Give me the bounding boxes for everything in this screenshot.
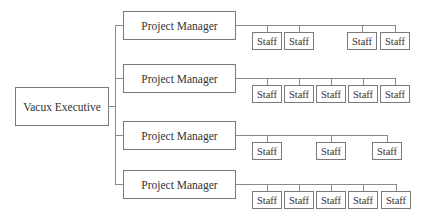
staff-box-label: Staff <box>321 146 341 157</box>
staff-box: Staff <box>347 32 377 50</box>
staff-box-label: Staff <box>257 195 277 206</box>
staff-box: Staff <box>252 85 282 103</box>
executive-box: Vacux Executive <box>15 87 109 126</box>
connector-line <box>362 25 363 32</box>
staff-box: Staff <box>252 142 282 160</box>
staff-box-label: Staff <box>289 36 309 47</box>
staff-box: Staff <box>252 191 282 209</box>
staff-box-label: Staff <box>257 89 277 100</box>
staff-box: Staff <box>381 191 411 209</box>
staff-box: Staff <box>284 191 314 209</box>
staff-box: Staff <box>380 32 410 50</box>
connector-line <box>363 184 364 191</box>
project-manager-box: Project Manager <box>123 170 236 199</box>
staff-box-label: Staff <box>353 89 373 100</box>
project-manager-box: Project Manager <box>123 121 236 150</box>
staff-box-label: Staff <box>289 89 309 100</box>
connector-line <box>395 78 396 85</box>
staff-box-label: Staff <box>353 195 373 206</box>
connector-line <box>115 25 116 185</box>
connector-line <box>267 78 268 85</box>
staff-box: Staff <box>316 142 346 160</box>
staff-box: Staff <box>372 142 402 160</box>
staff-box-label: Staff <box>386 195 406 206</box>
connector-line <box>267 25 268 32</box>
staff-box-label: Staff <box>385 36 405 47</box>
staff-box: Staff <box>284 85 314 103</box>
project-manager-box: Project Manager <box>123 64 236 93</box>
project-manager-box-label: Project Manager <box>141 20 217 32</box>
connector-line <box>299 78 300 85</box>
project-manager-box: Project Manager <box>123 11 236 40</box>
staff-box: Staff <box>348 191 378 209</box>
staff-box: Staff <box>380 85 410 103</box>
project-manager-box-label: Project Manager <box>141 130 217 142</box>
staff-box: Staff <box>316 85 346 103</box>
connector-line <box>235 78 396 79</box>
staff-box: Staff <box>348 85 378 103</box>
staff-box: Staff <box>284 32 314 50</box>
connector-line <box>387 135 388 142</box>
connector-line <box>396 184 397 191</box>
connector-line <box>115 25 123 26</box>
connector-line <box>331 135 332 142</box>
connector-line <box>267 135 268 142</box>
staff-box-label: Staff <box>321 195 341 206</box>
staff-box: Staff <box>252 32 282 50</box>
connector-line <box>235 135 388 136</box>
connector-line <box>331 78 332 85</box>
connector-line <box>267 184 268 191</box>
connector-line <box>363 78 364 85</box>
executive-box-label: Vacux Executive <box>23 101 101 113</box>
connector-line <box>331 184 332 191</box>
staff-box-label: Staff <box>385 89 405 100</box>
connector-line <box>235 25 396 26</box>
project-manager-box-label: Project Manager <box>141 73 217 85</box>
connector-line <box>115 184 123 185</box>
connector-line <box>299 25 300 32</box>
staff-box-label: Staff <box>257 36 277 47</box>
connector-line <box>395 25 396 32</box>
staff-box-label: Staff <box>321 89 341 100</box>
staff-box-label: Staff <box>377 146 397 157</box>
staff-box-label: Staff <box>289 195 309 206</box>
connector-line <box>115 135 123 136</box>
staff-box-label: Staff <box>257 146 277 157</box>
staff-box: Staff <box>316 191 346 209</box>
connector-line <box>299 184 300 191</box>
connector-line <box>235 184 397 185</box>
project-manager-box-label: Project Manager <box>141 179 217 191</box>
connector-line <box>115 78 123 79</box>
staff-box-label: Staff <box>352 36 372 47</box>
